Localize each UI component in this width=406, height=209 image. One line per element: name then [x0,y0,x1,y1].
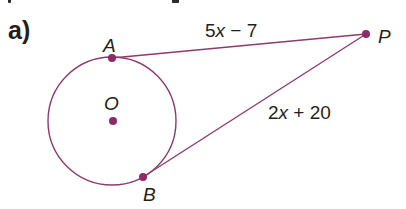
part-label: a) [8,18,30,43]
tangent-diagram: a) A O B P 5x − 7 2x + 20 [0,0,406,209]
point-p-label: P [378,27,391,46]
point-o-dot [109,117,117,125]
point-b-dot [139,173,147,181]
segment-bp-length-label: 2x + 20 [268,103,331,122]
geometry-figure [0,0,406,209]
ap-variable: x [216,20,226,41]
point-b-label: B [143,185,156,204]
point-p-dot [362,30,370,38]
segment-ap-length-label: 5x − 7 [205,21,257,40]
bp-variable: x [279,102,289,123]
bp-coefficient: 2 [268,102,279,123]
ap-coefficient: 5 [205,20,216,41]
point-o-label: O [104,94,119,113]
ap-constant: − 7 [225,20,257,41]
bp-constant: + 20 [288,102,331,123]
point-a-label: A [103,36,116,55]
tangent-segment-bp [143,34,366,177]
